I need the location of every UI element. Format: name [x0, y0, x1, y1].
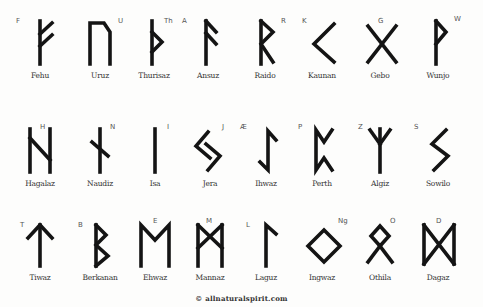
dagaz-rune-icon	[418, 222, 458, 268]
rune-cell-thurisaz: Th Thurisaz	[126, 20, 182, 100]
rune-cell-laguz: L Laguz	[238, 222, 294, 302]
fehu-rune-icon	[20, 20, 60, 66]
uruz-rune-icon	[80, 20, 120, 66]
rune-name: Ehwaz	[127, 274, 183, 282]
rune-name: Mannaz	[182, 274, 238, 282]
rune-name: Tiwaz	[12, 274, 68, 282]
rune-name: Raido	[237, 72, 293, 80]
rune-name: Berkanan	[72, 274, 128, 282]
rune-cell-jera: J Jera	[182, 128, 238, 208]
rune-cell-hagalaz: H Hagalaz	[12, 128, 68, 208]
wunjo-rune-icon	[418, 20, 458, 66]
rune-cell-ehwaz: E Ehwaz	[127, 222, 183, 302]
ihwaz-rune-icon	[246, 128, 286, 174]
rune-cell-kaunan: K Kaunan	[294, 20, 350, 100]
hagalaz-rune-icon	[20, 128, 60, 174]
rune-name: Gebo	[352, 72, 408, 80]
isa-rune-icon	[135, 128, 175, 174]
rune-name: Fehu	[12, 72, 68, 80]
rune-name: Dagaz	[410, 274, 466, 282]
gebo-rune-icon	[360, 20, 400, 66]
rune-cell-ingwaz: Ng Ingwaz	[294, 222, 350, 302]
rune-cell-perth: P Perth	[294, 128, 350, 208]
ehwaz-rune-icon	[135, 222, 175, 268]
rune-name: Perth	[294, 180, 350, 188]
rune-cell-fehu: F Fehu	[12, 20, 68, 100]
tiwaz-rune-icon	[20, 222, 60, 268]
rune-cell-othila: O Othila	[352, 222, 408, 302]
rune-cell-naudiz: N Naudiz	[72, 128, 128, 208]
jera-rune-icon	[190, 128, 230, 174]
rune-name: Othila	[352, 274, 408, 282]
rune-name: Uruz	[72, 72, 128, 80]
ansuz-rune-icon	[188, 20, 228, 66]
rune-cell-gebo: G Gebo	[352, 20, 408, 100]
rune-name: Hagalaz	[12, 180, 68, 188]
rune-cell-algiz: Z Algiz	[352, 128, 408, 208]
rune-name: Ihwaz	[238, 180, 294, 188]
rune-cell-wunjo: W Wunjo	[410, 20, 466, 100]
rune-chart: F Fehu U Uruz Th Thurisaz A Ansuz R Raid…	[0, 0, 483, 307]
algiz-rune-icon	[360, 128, 400, 174]
rune-cell-uruz: U Uruz	[72, 20, 128, 100]
rune-name: Sowilo	[410, 180, 466, 188]
thurisaz-rune-icon	[134, 20, 174, 66]
sowilo-rune-icon	[418, 128, 458, 174]
rune-cell-sowilo: S Sowilo	[410, 128, 466, 208]
mannaz-rune-icon	[190, 222, 230, 268]
perth-rune-icon	[302, 128, 342, 174]
rune-cell-dagaz: D Dagaz	[410, 222, 466, 302]
rune-name: Jera	[182, 180, 238, 188]
rune-cell-mannaz: M Mannaz	[182, 222, 238, 302]
laguz-rune-icon	[246, 222, 286, 268]
kaunan-rune-icon	[302, 20, 342, 66]
rune-name: Ansuz	[180, 72, 236, 80]
ingwaz-rune-icon	[302, 222, 342, 268]
rune-cell-ihwaz: Æ Ihwaz	[238, 128, 294, 208]
rune-cell-tiwaz: T Tiwaz	[12, 222, 68, 302]
raido-rune-icon	[245, 20, 285, 66]
othila-rune-icon	[360, 222, 400, 268]
rune-name: Naudiz	[72, 180, 128, 188]
rune-cell-isa: I Isa	[127, 128, 183, 208]
rune-name: Ingwaz	[294, 274, 350, 282]
rune-letter: A	[182, 18, 187, 25]
rune-cell-ansuz: A Ansuz	[180, 20, 236, 100]
rune-name: Algiz	[352, 180, 408, 188]
copyright-footer: © allnaturalspirit.com	[0, 294, 483, 303]
rune-cell-berkanan: B Berkanan	[72, 222, 128, 302]
rune-name: Laguz	[238, 274, 294, 282]
rune-name: Kaunan	[294, 72, 350, 80]
rune-cell-raido: R Raido	[237, 20, 293, 100]
berkanan-rune-icon	[80, 222, 120, 268]
naudiz-rune-icon	[80, 128, 120, 174]
rune-name: Thurisaz	[126, 72, 182, 80]
rune-name: Isa	[127, 180, 183, 188]
rune-name: Wunjo	[410, 72, 466, 80]
